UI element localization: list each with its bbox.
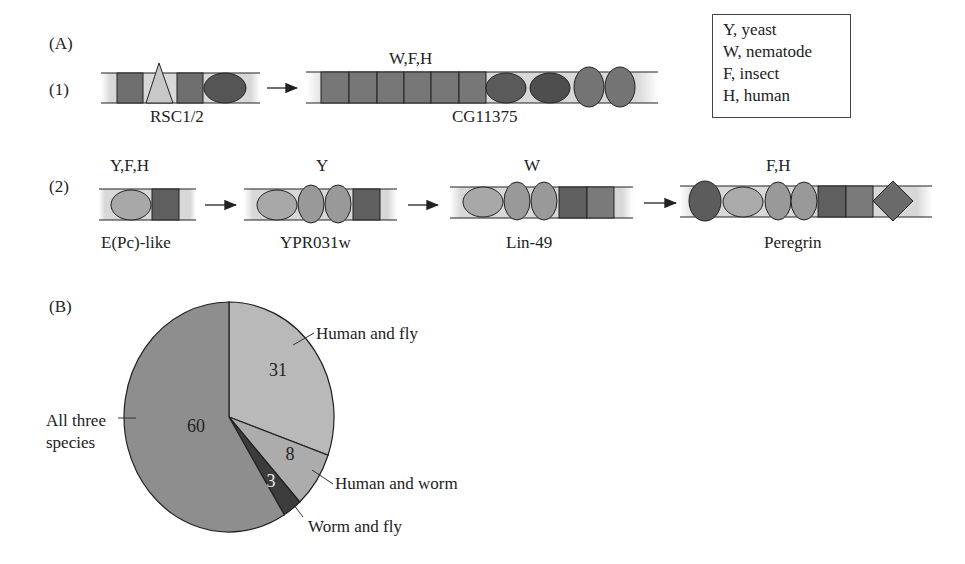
- pie-legend-all-three: All three species: [46, 410, 116, 454]
- pie-legend-all-three-text: All three species: [46, 411, 106, 452]
- pie-legend-human-worm: Human and worm: [335, 475, 458, 492]
- pie-value-label: 60: [187, 416, 205, 436]
- pie-legend-human-fly: Human and fly: [316, 325, 418, 342]
- pie-value-label: 3: [267, 471, 276, 491]
- pie-value-label: 31: [269, 360, 287, 380]
- pie-chart: 318360: [0, 0, 965, 564]
- pie-value-label: 8: [286, 444, 295, 464]
- pie-legend-worm-fly: Worm and fly: [308, 518, 402, 535]
